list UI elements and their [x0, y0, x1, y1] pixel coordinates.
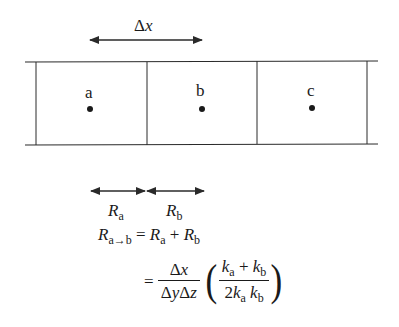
node-point-b	[199, 106, 205, 112]
top-boundary-line	[25, 61, 378, 62]
cell-label-a: a	[85, 84, 93, 101]
resistance-b-label: Rb	[166, 202, 182, 222]
equation-line-1: Ra→b = Ra + Rb	[98, 226, 200, 246]
left-paren: (	[206, 259, 218, 303]
equation-line-2: = Δx ΔyΔz ( ka + kb 2ka kb )	[144, 258, 284, 304]
right-paren: )	[271, 259, 283, 303]
delta-x-label: Δx	[134, 17, 152, 34]
resistance-a-label: Ra	[108, 202, 124, 222]
cell-label-c: c	[307, 82, 315, 99]
delta-symbol: Δ	[134, 16, 145, 35]
conductivity-fraction: ka + kb 2ka kb	[219, 258, 270, 304]
node-point-a	[87, 106, 93, 112]
cell-label-b: b	[196, 82, 205, 99]
node-point-c	[309, 105, 315, 111]
geometry-fraction: Δx ΔyΔz	[158, 261, 200, 301]
bottom-boundary-line	[25, 144, 378, 145]
x-variable: x	[145, 16, 153, 35]
